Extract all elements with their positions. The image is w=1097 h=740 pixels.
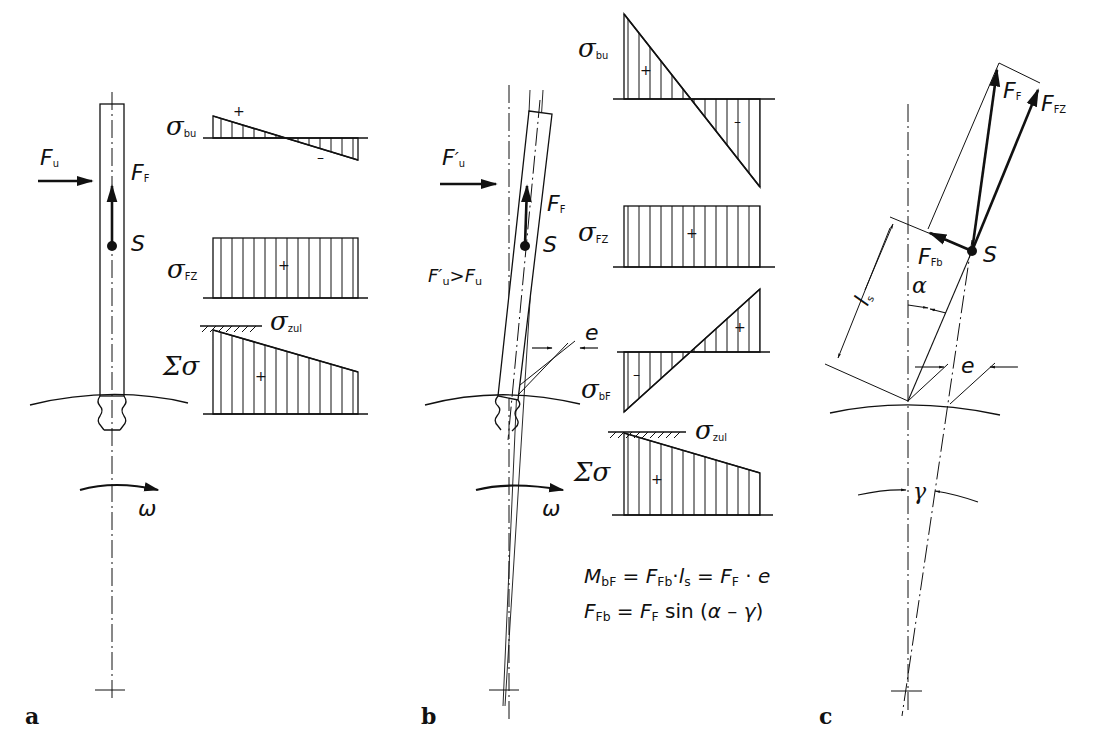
label-force-u-a: Fu <box>40 147 59 169</box>
panel-c-graphics <box>825 63 1040 716</box>
label-sigma-fz-a: σFZ <box>167 256 197 282</box>
label-force-f-a: FF <box>131 162 149 184</box>
label-sigma-zul-a: σzul <box>270 308 302 334</box>
sign-plus: + <box>686 226 698 240</box>
label-sigma-sum-b: Σσ <box>574 459 610 485</box>
panel-a-graphics <box>30 92 368 700</box>
label-eccentricity-b: e <box>585 322 599 344</box>
figure-turbine-blade-stress: Fu FF S ω σbu + – σFZ + σzul Σσ + a F′u … <box>0 0 1097 740</box>
label-force-fb-c: FFb <box>918 246 943 268</box>
label-sigma-zul-b: σzul <box>695 417 727 443</box>
sign-plus: + <box>255 369 267 383</box>
label-gamma-c: γ <box>913 481 926 503</box>
label-omega-a: ω <box>138 498 156 520</box>
sign-minus: – <box>633 367 640 381</box>
label-sigma-bu-a: σbu <box>166 113 196 139</box>
sign-plus: + <box>640 63 652 77</box>
label-force-f-b: FF <box>547 193 565 215</box>
panel-letter-c: c <box>819 705 832 727</box>
formula-bending-moment: MbF = FFb·ls = FF · e <box>584 566 770 589</box>
label-sigma-sum-a: Σσ <box>163 353 199 379</box>
label-point-s-c: S <box>983 244 997 266</box>
label-point-s-a: S <box>131 233 145 255</box>
sign-plus: + <box>278 258 290 272</box>
label-force-f-c: FF <box>1003 80 1021 102</box>
label-omega-b: ω <box>542 498 560 520</box>
panel-letter-a: a <box>25 705 39 727</box>
omega-arrow-a <box>80 485 158 490</box>
sign-minus: – <box>317 150 324 164</box>
panel-letter-b: b <box>421 705 436 727</box>
sign-plus: + <box>651 472 663 486</box>
label-eccentricity-c: e <box>961 355 975 377</box>
label-sigma-bu-b: σbu <box>578 35 608 61</box>
label-point-s-b: S <box>543 234 557 256</box>
sign-plus: + <box>734 320 746 334</box>
label-force-u-prime-b: F′u <box>442 147 465 169</box>
label-inequality-b: F′u>Fu <box>428 267 482 287</box>
label-sigma-bf-b: σbF <box>581 376 611 402</box>
sign-minus: – <box>734 114 741 128</box>
label-alpha-c: α <box>912 275 927 297</box>
label-force-fz-c: FFZ <box>1041 93 1066 115</box>
sign-plus: + <box>233 104 245 118</box>
formula-bending-force: FFb = FF sin (α – γ) <box>584 601 763 624</box>
label-sigma-fz-b: σFZ <box>578 219 608 245</box>
